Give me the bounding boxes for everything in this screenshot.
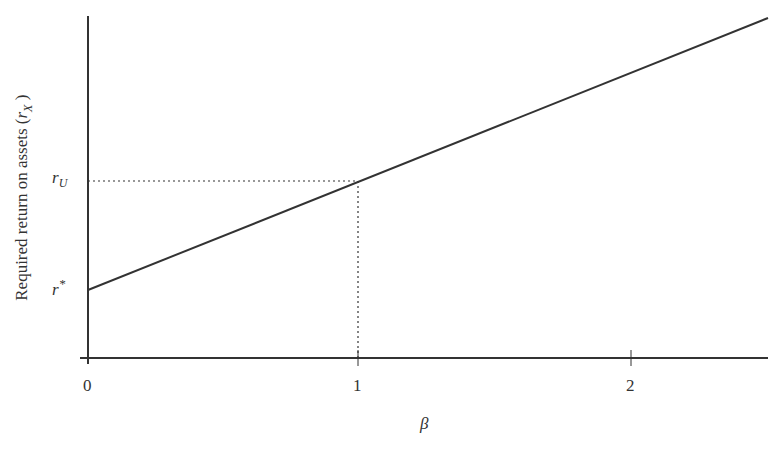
y-axis-label-var: r: [12, 112, 31, 119]
y-axis-label: Required return on assets (rX ): [12, 78, 35, 318]
rstar-base: r: [52, 280, 59, 299]
x-tick-label-1: 1: [353, 376, 362, 396]
chart-canvas: [0, 0, 779, 454]
y-tick-label-ru: rU: [52, 168, 67, 191]
y-tick-label-rstar: r*: [52, 276, 65, 300]
x-axis-label: β: [420, 414, 428, 434]
required-return-line: [88, 18, 768, 290]
x-tick-label-0: 0: [83, 376, 92, 396]
y-axis-label-sub: X: [21, 105, 35, 112]
y-axis-label-prefix: Required return on assets (: [12, 119, 31, 301]
ru-sub: U: [59, 176, 68, 190]
y-axis-label-suffix: ): [12, 95, 31, 105]
rstar-sup: *: [59, 276, 66, 291]
x-tick-label-2: 2: [626, 376, 635, 396]
ru-base: r: [52, 168, 59, 187]
